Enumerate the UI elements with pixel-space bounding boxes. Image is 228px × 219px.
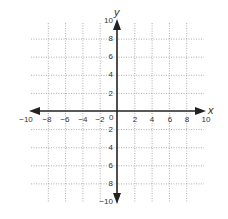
y-tick-label: 2 xyxy=(109,125,114,134)
x-tick-label: −4 xyxy=(78,115,88,124)
x-tick-label: 10 xyxy=(202,115,211,124)
origin-label: 0 xyxy=(109,113,114,122)
coordinate-plane: y x 0 −10−8−6−4−2246810 1086422468−10 xyxy=(0,0,228,219)
y-axis-up-arrow-icon xyxy=(113,19,121,30)
x-tick-label: −10 xyxy=(19,115,33,124)
x-tick-label: 6 xyxy=(168,115,173,124)
y-axis-label: y xyxy=(113,6,121,18)
y-tick-label: −10 xyxy=(99,197,113,206)
y-tick-label: 4 xyxy=(109,143,114,152)
y-tick-label: 6 xyxy=(109,52,114,61)
y-axis-down-arrow-icon xyxy=(113,193,121,204)
axes xyxy=(29,19,206,204)
y-tick-label: 2 xyxy=(109,89,114,98)
x-tick-label: 2 xyxy=(133,115,138,124)
x-tick-label: −6 xyxy=(60,115,70,124)
x-axis-right-arrow-icon xyxy=(195,107,206,115)
x-tick-label: 8 xyxy=(185,115,190,124)
y-tick-label: 6 xyxy=(109,161,114,170)
x-tick-label: −8 xyxy=(42,115,52,124)
x-tick-label: −2 xyxy=(95,115,105,124)
x-tick-labels: −10−8−6−4−2246810 xyxy=(19,115,211,124)
y-tick-label: 8 xyxy=(109,179,114,188)
y-tick-label: 10 xyxy=(104,16,113,25)
y-tick-label: 8 xyxy=(109,34,114,43)
x-axis-left-arrow-icon xyxy=(29,107,40,115)
y-tick-label: 4 xyxy=(109,70,114,79)
x-tick-label: 4 xyxy=(150,115,155,124)
